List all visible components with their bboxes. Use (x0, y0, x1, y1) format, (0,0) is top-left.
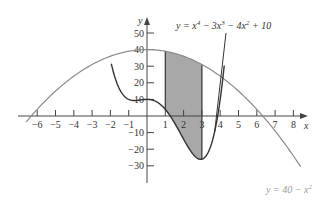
shaded-area-between-curves (165, 51, 202, 159)
y-tick-label: −20 (128, 144, 144, 155)
x-tick-label: 1 (163, 119, 168, 130)
parabola-equation-label: y = 40 − x2 (265, 183, 312, 195)
y-tick-label: 30 (134, 61, 144, 72)
function-plot: −6−5−4−3−2−112345678 x 5040302010−10−20−… (0, 0, 325, 210)
x-tick-label: −5 (50, 119, 61, 130)
x-tick-label: −2 (105, 119, 116, 130)
y-tick-label: −30 (128, 160, 144, 171)
x-tick-label: 8 (291, 119, 296, 130)
x-tick-label: 3 (199, 119, 204, 130)
quartic-label-leader-line (215, 33, 226, 131)
y-axis-label: y (137, 15, 143, 26)
quartic-equation-label: y = x4 − 3x3 − 4x2 + 10 (175, 19, 271, 31)
y-tick-label: 20 (134, 77, 144, 88)
x-tick-label: −6 (32, 119, 43, 130)
y-tick-label: 50 (134, 28, 144, 39)
x-tick-label: 4 (218, 119, 223, 130)
x-tick-label: 6 (254, 119, 259, 130)
y-tick-label: −10 (128, 127, 144, 138)
x-tick-label: 5 (236, 119, 241, 130)
x-tick-label: −4 (68, 119, 79, 130)
x-axis-label: x (303, 120, 309, 131)
x-axis: −6−5−4−3−2−112345678 x (18, 110, 309, 131)
x-tick-label: −3 (87, 119, 98, 130)
x-tick-label: 2 (181, 119, 186, 130)
